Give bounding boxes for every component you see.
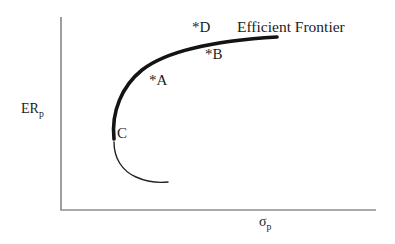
point-label-d: *D	[192, 20, 210, 35]
x-axis-label-text: σ	[259, 214, 267, 229]
efficient-frontier-figure: ERp σp Efficient Frontier *D *B *A C	[0, 0, 395, 244]
efficient-frontier-curve	[114, 37, 277, 139]
point-label-b: *B	[205, 47, 223, 62]
efficient-frontier-label: Efficient Frontier	[237, 19, 345, 35]
x-axis-label-subscript: p	[267, 221, 272, 232]
point-label-c: C	[117, 126, 127, 141]
point-label-a: *A	[149, 73, 167, 88]
y-axis-label: ERp	[21, 102, 44, 116]
y-axis-label-text: ER	[21, 101, 39, 116]
x-axis-label: σp	[259, 215, 271, 229]
plot-canvas	[0, 0, 395, 244]
y-axis-label-subscript: p	[39, 108, 44, 119]
inefficient-frontier-curve	[114, 142, 168, 182]
